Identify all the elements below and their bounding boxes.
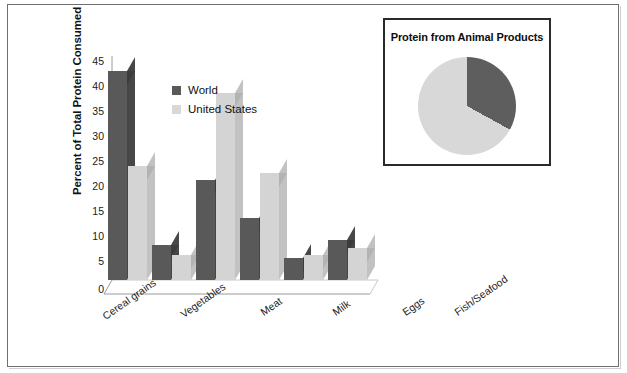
bar-vegetables-world xyxy=(152,245,171,294)
x-label-fish-seafood: Fish/Seafood xyxy=(452,273,510,318)
bar-fish-seafood-united-states xyxy=(348,248,367,294)
legend-swatch-world xyxy=(172,86,181,95)
bar-eggs-united-states xyxy=(304,255,323,294)
bar-milk-world xyxy=(240,218,259,294)
bar-face xyxy=(196,180,215,280)
legend-swatch-united-states xyxy=(172,105,181,114)
bar-face xyxy=(152,245,171,280)
pie-slices xyxy=(418,57,516,155)
bar-face xyxy=(108,71,127,280)
bar-face xyxy=(304,255,323,280)
bar-face xyxy=(348,248,367,280)
bar-face xyxy=(240,218,259,280)
bar-vegetables-united-states xyxy=(172,255,191,294)
bar-face xyxy=(260,173,279,280)
chart-page: Percent of Total Protein Consumed 45 40 … xyxy=(0,0,627,373)
bar-cereal-grains-world xyxy=(108,71,127,294)
legend-item-world: World xyxy=(172,84,257,96)
legend-item-united-states: United States xyxy=(172,103,257,115)
inset-title: Protein from Animal Products xyxy=(385,31,549,43)
bar-meat-united-states xyxy=(216,93,235,294)
legend-label-united-states: United States xyxy=(188,103,257,115)
bar-cereal-grains-united-states xyxy=(128,166,147,294)
bar-milk-united-states xyxy=(260,173,279,294)
pie-chart xyxy=(418,57,516,155)
bar-face xyxy=(328,240,347,280)
bar-fish-seafood-world xyxy=(328,240,347,294)
bar-eggs-world xyxy=(284,258,303,294)
x-label-eggs: Eggs xyxy=(400,294,426,318)
bar-meat-world xyxy=(196,180,215,294)
legend: World United States xyxy=(172,84,257,122)
bar-face xyxy=(128,166,147,280)
bar-face xyxy=(172,255,191,280)
legend-label-world: World xyxy=(188,84,218,96)
inset-panel-protein-from-animal-products: Protein from Animal Products xyxy=(383,18,551,166)
bar-face xyxy=(284,258,303,280)
